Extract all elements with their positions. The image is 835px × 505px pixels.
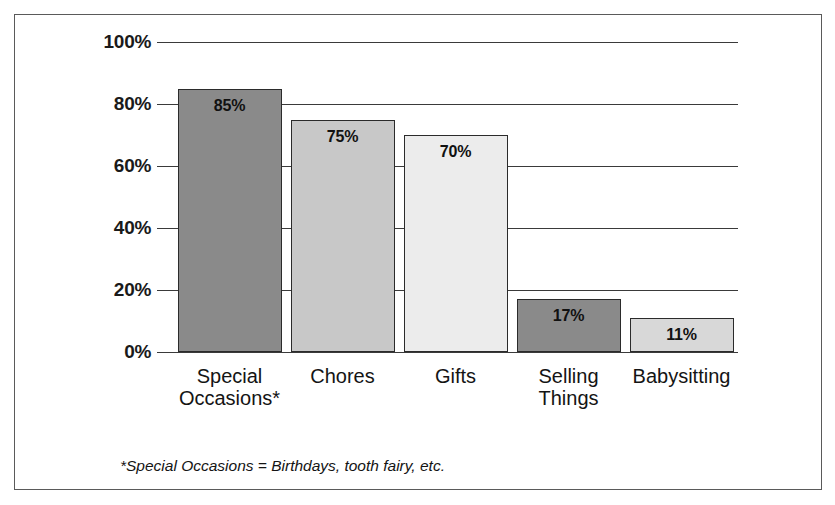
y-axis-tick-40 xyxy=(157,228,173,229)
y-axis-label-100: 100% xyxy=(104,31,151,53)
x-axis-category-label: Special Occasions* xyxy=(179,365,280,410)
gridline-100 xyxy=(173,42,738,43)
y-axis-tick-60 xyxy=(157,166,173,167)
bar-value-label: 11% xyxy=(631,326,733,344)
x-axis-category-label: Chores xyxy=(310,365,374,387)
y-axis-tick-20 xyxy=(157,290,173,291)
y-axis-label-20: 20% xyxy=(114,279,151,301)
gridline-0 xyxy=(173,352,738,353)
bar-value-label: 85% xyxy=(179,97,281,115)
bar[interactable]: 17% xyxy=(517,299,621,352)
y-axis-tick-0 xyxy=(157,352,173,353)
y-axis-label-40: 40% xyxy=(114,217,151,239)
y-axis-tick-100 xyxy=(157,42,173,43)
x-axis-category-label: Babysitting xyxy=(633,365,731,387)
bar-value-label: 75% xyxy=(292,128,394,146)
bar[interactable]: 11% xyxy=(630,318,734,352)
bar[interactable]: 75% xyxy=(291,120,395,353)
chart-frame: 100%80%60%40%20%0% 85%Special Occasions*… xyxy=(14,14,822,490)
bar[interactable]: 70% xyxy=(404,135,508,352)
y-axis-label-80: 80% xyxy=(114,93,151,115)
y-axis-label-0: 0% xyxy=(124,341,151,363)
bar-value-label: 70% xyxy=(405,143,507,161)
y-axis-tick-80 xyxy=(157,104,173,105)
x-axis-category-label: Gifts xyxy=(435,365,476,387)
plot-area: 100%80%60%40%20%0% 85%Special Occasions*… xyxy=(173,42,738,352)
x-axis-category-label: Selling Things xyxy=(538,365,598,410)
bar-value-label: 17% xyxy=(518,307,620,325)
chart-footnote: *Special Occasions = Birthdays, tooth fa… xyxy=(120,457,445,475)
y-axis-label-60: 60% xyxy=(114,155,151,177)
bar[interactable]: 85% xyxy=(178,89,282,353)
